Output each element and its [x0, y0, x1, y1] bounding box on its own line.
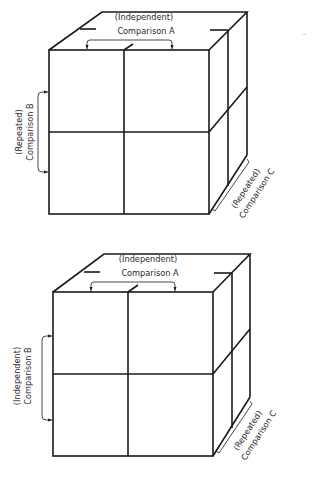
label-b-line1: (Repeated) — [14, 109, 24, 154]
arrowheads-b — [44, 91, 48, 174]
label-b-line2: Comparison B — [23, 347, 33, 405]
bracket-arrow-a — [91, 282, 175, 291]
label-b-line1: (Independent) — [12, 347, 22, 405]
cube-diagram-top: (Independent) Comparison A (Repeated) Co… — [14, 12, 276, 220]
label-a-line2: Comparison A — [121, 268, 179, 278]
top-divider-stub — [128, 285, 138, 292]
stray-mark: ^ — [302, 32, 307, 39]
top-divider-stub — [124, 44, 133, 50]
cube-diagram-bottom: (Independent) Comparison A (Independent)… — [12, 254, 278, 462]
label-a-line2: Comparison A — [117, 26, 175, 36]
bracket-arrow-b — [42, 336, 52, 420]
label-a-line1: (Independent) — [119, 254, 177, 264]
bracket-arrow-b — [38, 92, 48, 172]
figure-canvas: (Independent) Comparison A (Repeated) Co… — [0, 0, 314, 488]
arrowheads-b — [48, 335, 52, 422]
label-b-line2: Comparison B — [25, 103, 35, 161]
label-a-line1: (Independent) — [115, 12, 173, 22]
bracket-arrow-a — [87, 40, 172, 49]
